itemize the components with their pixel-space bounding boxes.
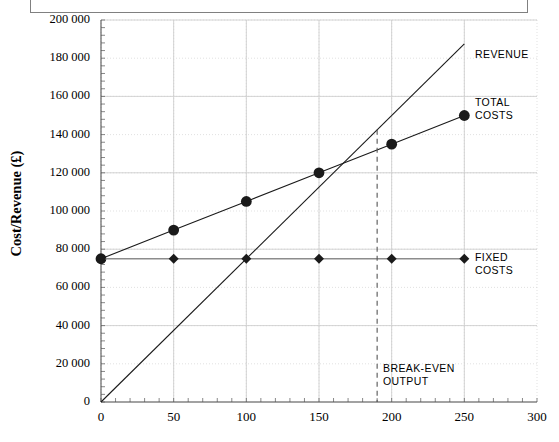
series-label-total-costs: TOTAL COSTS bbox=[475, 96, 513, 122]
gridlines bbox=[101, 20, 537, 402]
series-label-fixed-costs: FIXED COSTS bbox=[475, 251, 513, 277]
break-even-chart: Cost/Revenue (£) 020 00040 00060 00080 0… bbox=[0, 0, 559, 442]
series-label-revenue: REVENUE bbox=[475, 48, 529, 61]
data-series-layer bbox=[96, 44, 470, 402]
annotation-break-even-output: BREAK-EVEN OUTPUT bbox=[383, 362, 455, 388]
plot-canvas bbox=[0, 0, 559, 442]
